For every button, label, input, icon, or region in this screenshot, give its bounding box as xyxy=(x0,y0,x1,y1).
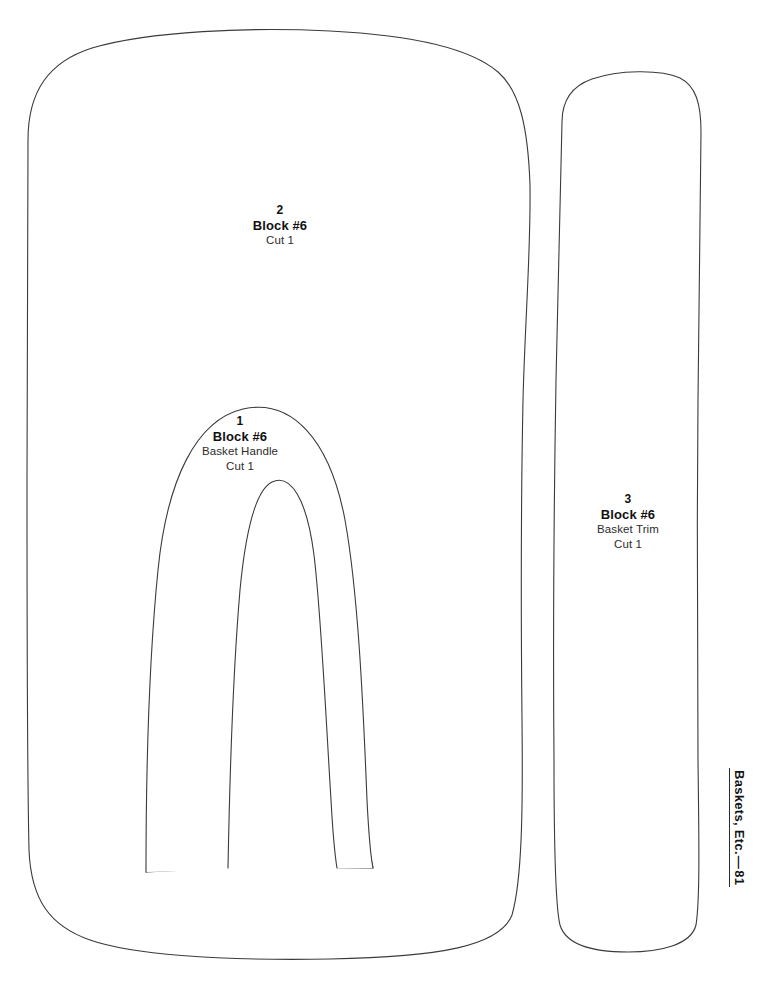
piece-3-number: 3 xyxy=(558,492,698,507)
footer-rule: Baskets, Etc.—81 xyxy=(729,768,747,887)
footer-book-title: Baskets, Etc. xyxy=(732,770,747,855)
piece-2-cut: Cut 1 xyxy=(190,233,370,247)
piece-3-title: Block #6 xyxy=(558,507,698,523)
piece-1-cut: Cut 1 xyxy=(150,459,330,473)
piece-1-label: 1 Block #6 Basket Handle Cut 1 xyxy=(150,414,330,473)
piece-2-title: Block #6 xyxy=(190,218,370,234)
piece-3-cut: Cut 1 xyxy=(558,537,698,551)
piece-1-subtitle: Basket Handle xyxy=(150,444,330,458)
piece-1-number: 1 xyxy=(150,414,330,429)
page-footer: Baskets, Etc.—81 xyxy=(720,768,756,908)
piece-2-label: 2 Block #6 Cut 1 xyxy=(190,203,370,248)
piece-1-title: Block #6 xyxy=(150,429,330,445)
footer-page-number: 81 xyxy=(732,870,747,885)
footer-dash: — xyxy=(732,855,747,870)
piece-3-subtitle: Basket Trim xyxy=(558,522,698,536)
pattern-page: 2 Block #6 Cut 1 1 Block #6 Basket Handl… xyxy=(0,0,764,1007)
piece-2-number: 2 xyxy=(190,203,370,218)
piece-3-label: 3 Block #6 Basket Trim Cut 1 xyxy=(558,492,698,551)
